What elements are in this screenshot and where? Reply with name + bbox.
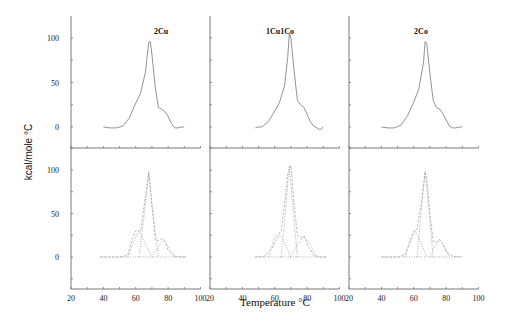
fit-sum-curve: [255, 166, 326, 257]
y-tick-label: 0: [55, 253, 59, 262]
x-tick-label: 20: [345, 294, 353, 303]
experimental-curve: [381, 42, 462, 128]
x-tick-label: 60: [132, 294, 140, 303]
x-tick-label: 40: [238, 294, 246, 303]
component-curve: [404, 231, 427, 257]
y-tick-label: 50: [51, 210, 59, 219]
x-tick-label: 80: [303, 294, 311, 303]
component-curve: [139, 172, 158, 257]
panel-2: 204060801001Cu1Co: [206, 16, 346, 303]
y-tick-label: 100: [47, 166, 59, 175]
x-tick-label: 40: [99, 294, 107, 303]
component-curve: [268, 234, 291, 257]
panels-group: 204060801000501000501002Cu204060801001Cu…: [47, 16, 485, 303]
x-tick-label: 60: [271, 294, 279, 303]
x-tick-label: 100: [473, 294, 485, 303]
y-tick-label: 50: [51, 79, 59, 88]
figure-canvas: kcal/mole °C Temperature °C 204060801000…: [0, 0, 506, 328]
panel-title: 2Cu: [154, 27, 169, 36]
panel-3: 204060801002Co: [345, 16, 485, 303]
experimental-curve: [255, 34, 323, 130]
y-tick-label: 0: [55, 123, 59, 132]
panel-1: 204060801000501000501002Cu: [47, 16, 207, 303]
component-curve: [430, 240, 450, 257]
y-axis-label: kcal/mole °C: [23, 124, 34, 180]
x-tick-label: 100: [195, 294, 207, 303]
fit-sum-curve: [381, 172, 462, 257]
experimental-curve: [103, 42, 184, 128]
y-tick-label: 100: [47, 34, 59, 43]
component-curve: [128, 231, 152, 257]
x-tick-label: 20: [206, 294, 214, 303]
component-curve: [152, 240, 175, 257]
x-tick-label: 60: [410, 294, 418, 303]
x-tick-label: 20: [67, 294, 75, 303]
x-tick-label: 40: [377, 294, 385, 303]
x-tick-label: 80: [164, 294, 172, 303]
panel-title: 2Co: [414, 27, 428, 36]
x-tick-label: 80: [442, 294, 450, 303]
x-tick-label: 100: [334, 294, 346, 303]
fit-sum-curve: [100, 172, 186, 257]
